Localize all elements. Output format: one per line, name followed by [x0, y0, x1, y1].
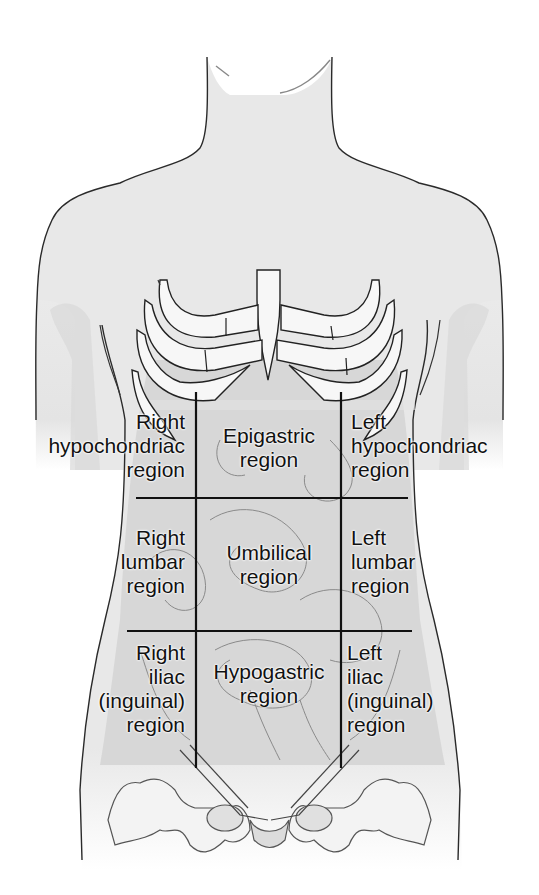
label-hypogastric: Hypogastric region [199, 660, 339, 708]
label-right-iliac: Right iliac (inguinal) region [55, 641, 185, 737]
label-umbilical: Umbilical region [199, 541, 339, 589]
label-epigastric: Epigastric region [199, 424, 339, 472]
label-right-lumbar: Right lumbar region [85, 526, 185, 598]
label-left-iliac: Left iliac (inguinal) region [347, 641, 487, 737]
label-left-lumbar: Left lumbar region [351, 526, 451, 598]
label-right-hypochondriac: Right hypochondriac region [35, 410, 185, 482]
label-left-hypochondriac: Left hypochondriac region [351, 410, 531, 482]
abdominal-regions-diagram: Right hypochondriac region Epigastric re… [0, 0, 539, 895]
